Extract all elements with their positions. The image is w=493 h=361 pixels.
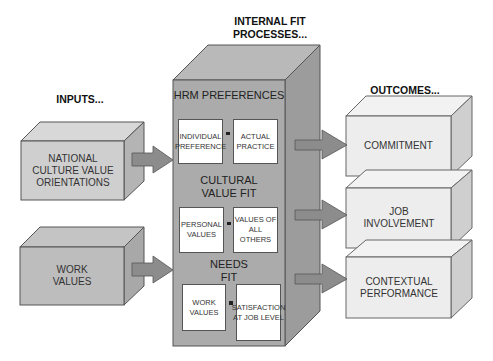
input-label-work-values: WORK VALUES bbox=[40, 247, 104, 305]
input-label-national-culture: NATIONAL CULTURE VALUE ORIENTATIONS bbox=[24, 141, 122, 200]
header-internal-fit: INTERNAL FIT PROCESSES... bbox=[200, 15, 340, 41]
section-title-needs: NEEDS FIT bbox=[205, 258, 253, 284]
section-title-cultural: CULTURAL VALUE FIT bbox=[188, 174, 270, 200]
minus-operator bbox=[226, 132, 230, 135]
outcome-label-commitment: COMMITMENT bbox=[346, 116, 451, 176]
needs-right-box: SATISFACTION AT JOB LEVEL bbox=[236, 284, 281, 341]
header-outcomes: OUTCOMES... bbox=[355, 84, 455, 97]
needs-left-box: WORK VALUES bbox=[182, 284, 226, 331]
hrm-right-box: ACTUAL PRACTICE bbox=[233, 119, 278, 164]
cultural-right-box: VALUES OF ALL OTHERS bbox=[233, 207, 278, 253]
outcome-label-contextual-performance: CONTEXTUAL PERFORMANCE bbox=[350, 257, 448, 318]
section-title-hrm: HRM PREFERENCES bbox=[173, 89, 285, 102]
header-inputs: INPUTS... bbox=[40, 93, 120, 106]
cultural-left-box: PERSONAL VALUES bbox=[179, 207, 224, 253]
minus-operator bbox=[227, 222, 231, 225]
outcome-label-job-involvement: JOB INVOLVEMENT bbox=[360, 188, 438, 248]
hrm-left-box: INDIVIDUAL PREFERENCE bbox=[178, 119, 223, 164]
